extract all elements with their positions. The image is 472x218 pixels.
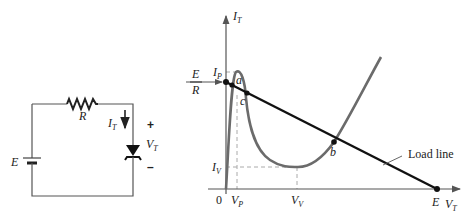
point-b-marker [331,139,337,145]
ip-label: IP [212,65,222,81]
resistor-icon [67,99,98,109]
point-c-label: c [240,94,246,108]
svg-text:E: E [191,67,200,81]
svg-text:R: R [191,83,200,97]
point-a-label: a [236,73,242,87]
vv-label: VV [291,193,304,209]
circuit-wire [32,174,133,196]
voltage-label: VT [146,137,158,153]
guide-lines [226,72,297,189]
e-label: E [431,195,440,209]
source-label: E [10,155,19,169]
circuit-schematic: E R IT + VT – [10,99,158,196]
circuit-wire [98,104,133,140]
current-label: IT [107,116,117,132]
characteristic-graph: IT VT 0 IP IV VP VV E R E a c b Load lin… [186,9,460,213]
minus-sign: – [147,160,154,174]
point-e-marker [434,186,440,192]
point-b-label: b [330,145,336,159]
e-over-r-label: E R [190,67,202,97]
x-axis-label: VT [445,197,457,213]
tunnel-diode-curve [226,57,381,189]
resistor-label: R [78,109,87,123]
load-line [226,82,437,189]
tunnel-diode-diagram: E R IT + VT – IT VT [0,0,472,218]
battery-icon [23,158,41,175]
vp-label: VP [231,193,243,209]
tunnel-diode-icon [125,140,141,174]
point-e-over-r [223,79,229,85]
plus-sign: + [147,118,154,132]
iv-label: IV [211,160,222,176]
point-a-marker [229,82,234,87]
load-line-leader [383,156,402,165]
load-line-label: Load line [408,147,454,161]
y-axis-label: IT [232,9,242,25]
origin-label: 0 [216,193,222,207]
